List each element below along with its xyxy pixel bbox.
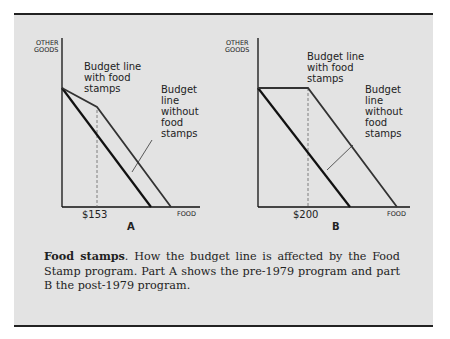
- x-axis-label: FOOD: [177, 210, 196, 218]
- annotation-with: stamps: [84, 83, 121, 94]
- budget-line-without: [62, 88, 151, 207]
- annotation-without: food: [161, 117, 183, 128]
- caption-title: Food stamps: [44, 249, 125, 263]
- x-tick-label: $153: [82, 209, 107, 220]
- annotation-with: Budget line: [307, 51, 364, 62]
- annotation-without: line: [365, 95, 383, 106]
- panel-label: A: [127, 221, 135, 232]
- annotation-with: Budget line: [84, 61, 141, 72]
- annotation-with: with food: [84, 72, 131, 83]
- annotation-without: stamps: [365, 128, 402, 139]
- x-tick-label: $200: [293, 209, 318, 220]
- chart-a: OTHER GOODS FOOD Budget line with food s…: [34, 38, 200, 232]
- annotation-without: stamps: [161, 128, 198, 139]
- annotation-without: Budget: [161, 84, 197, 95]
- annotation-without: without: [365, 106, 403, 117]
- annotation-with: with food: [307, 62, 354, 73]
- panel-label: B: [332, 221, 340, 232]
- annotation-without: line: [161, 95, 179, 106]
- budget-line-without: [258, 88, 350, 207]
- annotation-without: without: [161, 106, 199, 117]
- annotation-without: Budget: [365, 84, 401, 95]
- annotation-with: stamps: [307, 73, 344, 84]
- figure-caption: Food stamps. How the budget line is affe…: [44, 249, 400, 294]
- annotation-pointer: [327, 145, 353, 170]
- chart-b: OTHER GOODS FOOD Budget line with food s…: [225, 38, 410, 232]
- annotation-without: food: [365, 117, 387, 128]
- budget-line-with: [62, 88, 171, 207]
- y-axis-label: GOODS: [34, 46, 58, 54]
- x-axis-label: FOOD: [387, 210, 406, 218]
- y-axis-label: GOODS: [225, 46, 249, 54]
